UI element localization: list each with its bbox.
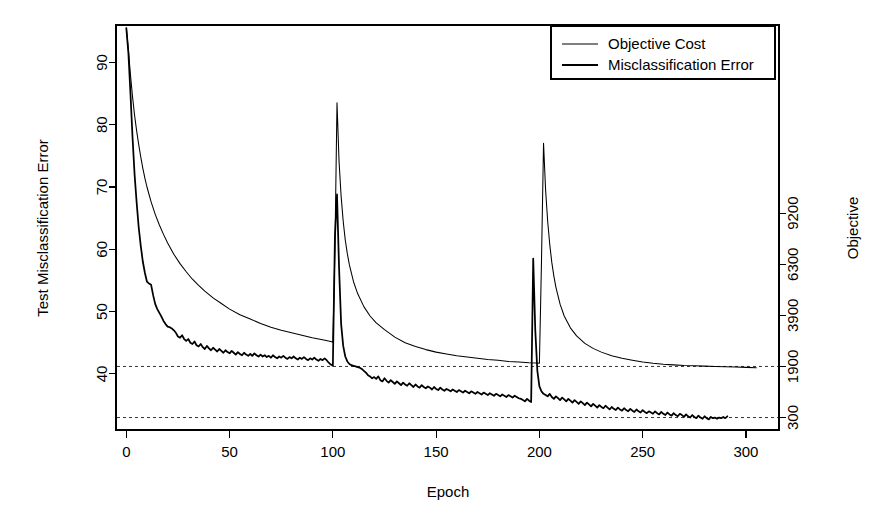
x-tick-label-100: 100 [320, 443, 345, 460]
x-tick-label-300: 300 [733, 443, 758, 460]
y-axis-right: 3001900390063009200 [779, 196, 801, 430]
y2-tick-label-9200: 9200 [784, 196, 801, 229]
reference-lines-group [117, 366, 778, 417]
legend-label-objective-cost: Objective Cost [608, 35, 706, 52]
data-series-group [126, 28, 756, 419]
y2-tick-label-300: 300 [784, 405, 801, 430]
x-tick-label-150: 150 [424, 443, 449, 460]
y2-tick-label-3900: 3900 [784, 299, 801, 332]
x-axis: 050100150200250300 [122, 430, 758, 460]
y-tick-label-50: 50 [93, 303, 110, 320]
x-axis-title: Epoch [427, 483, 470, 500]
x-tick-label-50: 50 [221, 443, 238, 460]
y-tick-label-40: 40 [93, 366, 110, 383]
y-tick-label-60: 60 [93, 241, 110, 258]
chart-canvas: 405060708090 3001900390063009200 0501001… [0, 0, 893, 527]
legend-label-misclassification-error: Misclassification Error [608, 56, 754, 73]
y2-tick-label-6300: 6300 [784, 248, 801, 281]
plot-frame [116, 25, 779, 430]
y-tick-label-90: 90 [93, 54, 110, 71]
y-axis-left: 405060708090 [93, 54, 116, 382]
x-tick-label-200: 200 [527, 443, 552, 460]
y-axis-left-title: Test Misclassification Error [34, 139, 51, 317]
chart-figure: 405060708090 3001900390063009200 0501001… [0, 0, 893, 527]
chart-legend: Objective Cost Misclassification Error [551, 26, 775, 79]
y-tick-label-70: 70 [93, 179, 110, 196]
x-tick-label-250: 250 [630, 443, 655, 460]
x-tick-label-0: 0 [122, 443, 130, 460]
y-axis-right-title: Objective [844, 197, 861, 260]
y2-tick-label-1900: 1900 [784, 350, 801, 383]
y-tick-label-80: 80 [93, 116, 110, 133]
